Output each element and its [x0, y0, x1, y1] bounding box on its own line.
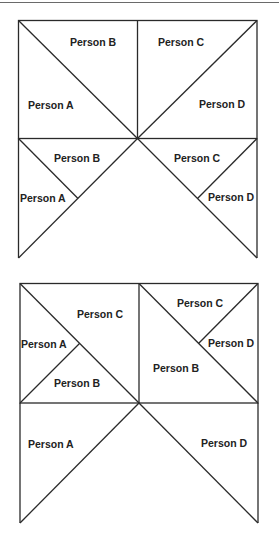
figure-2-top-left-inner [20, 344, 80, 404]
label-person-b: Person B [153, 362, 200, 374]
figure-2-lower-right-diagonal [139, 403, 258, 523]
label-person-a: Person A [28, 438, 74, 450]
label-person-d: Person D [208, 191, 255, 203]
figure-2-lower-left-diagonal [20, 403, 139, 523]
figure-1: Person B Person A Person C Person D Pers… [19, 21, 258, 259]
label-person-d: Person D [208, 337, 255, 349]
label-person-c: Person C [177, 297, 224, 309]
label-person-b: Person B [70, 36, 117, 48]
figure-2-top-right-inner [199, 284, 259, 344]
label-person-a: Person A [28, 99, 74, 111]
label-person-c: Person C [77, 308, 124, 320]
label-person-a: Person A [20, 192, 66, 204]
label-person-b: Person B [54, 152, 101, 164]
label-person-d: Person D [199, 98, 246, 110]
figure-2: Person C Person A Person B Person C Pers… [20, 284, 258, 524]
label-person-b: Person B [54, 377, 101, 389]
partition-diagram: Person B Person A Person C Person D Pers… [0, 0, 279, 550]
label-person-c: Person C [158, 36, 205, 48]
label-person-a: Person A [21, 338, 67, 350]
label-person-c: Person C [174, 152, 221, 164]
figure-1-lower-right-inner [198, 139, 258, 199]
figure-1-lower-left-inner [19, 139, 79, 199]
label-person-d: Person D [201, 437, 248, 449]
